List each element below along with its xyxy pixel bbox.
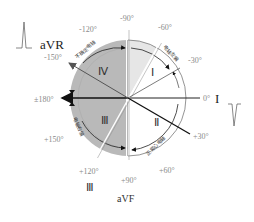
axis-plus30 xyxy=(128,98,190,134)
quadrant-III: Ⅲ xyxy=(101,114,109,126)
label-zero: 0° xyxy=(203,94,210,103)
quadrant-II: Ⅱ xyxy=(154,116,159,128)
lead-I-label: I xyxy=(215,91,219,106)
quadrant-I: Ⅰ xyxy=(151,66,154,78)
quadrant-IV: Ⅳ xyxy=(98,65,109,77)
label-p120: +120° xyxy=(79,167,99,176)
lead-I-negative-wave-icon xyxy=(228,104,241,126)
label-p60: +60° xyxy=(159,166,175,175)
label-p30: +30° xyxy=(193,132,209,141)
label-m90: -90° xyxy=(120,14,134,23)
region-left-deviation: 电轴左偏 xyxy=(162,44,181,64)
lead-aVR-label: aVR xyxy=(40,37,64,52)
label-m60: -60° xyxy=(158,23,172,32)
hexaxial-diagram: -90° -60° -30° 0° +30° +60° +90° +120° +… xyxy=(0,0,254,222)
lead-aVF-label: aVF xyxy=(117,193,135,204)
label-m30: -30° xyxy=(188,56,202,65)
label-p90: +90° xyxy=(121,176,137,185)
arc-left-deviation-2 xyxy=(173,72,179,88)
label-p150: +150° xyxy=(44,135,64,144)
label-m150: -150° xyxy=(44,53,62,62)
label-p180: ±180° xyxy=(34,95,54,104)
aVR-positive-wave-icon xyxy=(16,22,32,48)
label-m120: -120° xyxy=(79,25,97,34)
lead-III-label: Ⅲ xyxy=(86,181,94,193)
